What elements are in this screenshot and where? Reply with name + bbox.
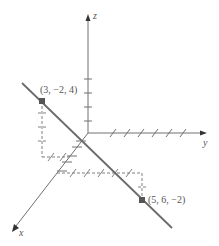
point-a-marker [39, 98, 45, 104]
x-axis-label: x [19, 228, 23, 238]
line-through-points [22, 83, 172, 228]
point-a-label: (3, −2, 4) [40, 85, 77, 95]
z-axis [84, 14, 92, 133]
y-arrow-icon [200, 131, 207, 136]
z-axis-label: z [93, 11, 97, 21]
y-axis [88, 129, 207, 137]
point-b-label: (5, 6, −2) [148, 195, 185, 205]
3d-coordinate-diagram [0, 0, 219, 246]
point-b-marker [139, 197, 145, 203]
x-axis [12, 133, 88, 232]
z-arrow-icon [86, 14, 91, 21]
y-axis-label: y [203, 138, 207, 148]
x-arrow-icon [12, 224, 19, 232]
dashed-projection-a [38, 101, 72, 157]
